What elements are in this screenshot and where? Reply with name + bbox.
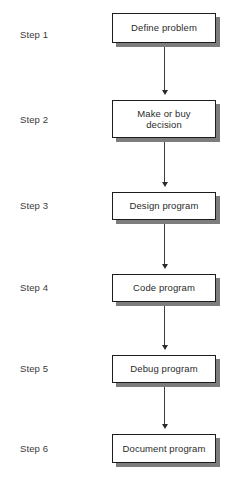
- node-label: Document program: [119, 443, 210, 455]
- arrow-line: [164, 224, 165, 264]
- process-node-debug-program[interactable]: Debug program: [112, 355, 216, 383]
- node-label: Code program: [129, 282, 199, 294]
- process-node-make-or-buy-decision[interactable]: Make or buy decision: [112, 100, 216, 138]
- node-label: Make or buy decision: [133, 108, 194, 131]
- node-box: Document program: [112, 434, 216, 463]
- arrow-head-icon: [162, 182, 168, 187]
- node-box: Make or buy decision: [112, 100, 216, 138]
- node-label: Debug program: [126, 363, 201, 375]
- arrow-line: [164, 306, 165, 345]
- node-label: Design program: [126, 200, 203, 212]
- arrow-line: [164, 47, 165, 90]
- arrow-line: [164, 142, 165, 182]
- arrow-head-icon: [162, 345, 168, 350]
- node-box: Design program: [112, 192, 216, 220]
- node-box: Code program: [112, 274, 216, 302]
- step-label-2: Step 2: [20, 115, 48, 125]
- process-node-design-program[interactable]: Design program: [112, 192, 216, 220]
- node-box: Debug program: [112, 355, 216, 383]
- node-label: Define problem: [127, 22, 201, 34]
- node-box: Define problem: [112, 13, 216, 43]
- step-label-5: Step 5: [20, 364, 48, 374]
- arrow-line: [164, 387, 165, 424]
- process-node-document-program[interactable]: Document program: [112, 434, 216, 463]
- step-label-1: Step 1: [20, 30, 48, 40]
- step-label-3: Step 3: [20, 201, 48, 211]
- arrow-head-icon: [162, 90, 168, 95]
- arrow-head-icon: [162, 264, 168, 269]
- flowchart-diagram: Step 1 Define problem Step 2 Make or buy…: [0, 0, 239, 480]
- step-label-6: Step 6: [20, 444, 48, 454]
- step-label-4: Step 4: [20, 283, 48, 293]
- process-node-code-program[interactable]: Code program: [112, 274, 216, 302]
- arrow-head-icon: [162, 424, 168, 429]
- process-node-define-problem[interactable]: Define problem: [112, 13, 216, 43]
